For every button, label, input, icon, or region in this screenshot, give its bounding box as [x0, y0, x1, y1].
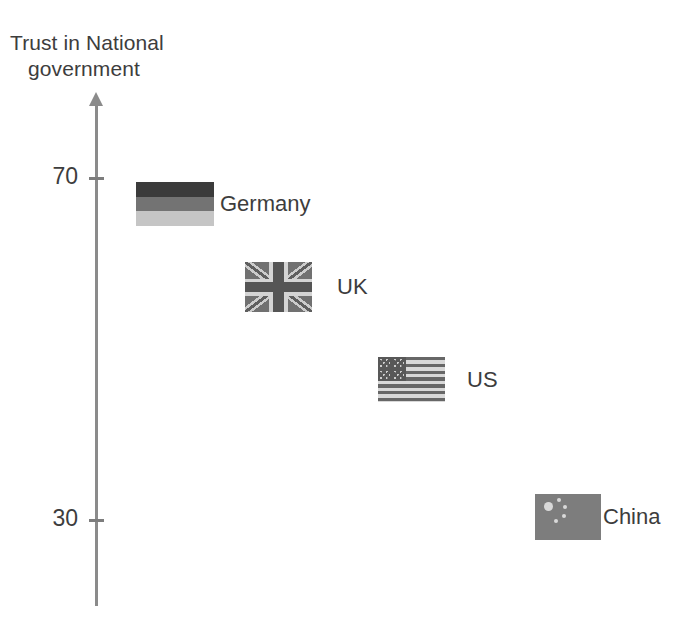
y-axis-title-line1: Trust in National [10, 31, 164, 54]
y-axis-tick-mark-30 [89, 519, 104, 522]
china-star-small-1 [557, 498, 561, 502]
data-point-uk: UK [245, 262, 368, 312]
flag-china-icon [535, 494, 601, 540]
data-point-china: China [535, 494, 660, 540]
y-axis-title: Trust in Nationalgovernment [10, 30, 164, 82]
data-point-label-germany: Germany [220, 193, 310, 215]
flag-germany-icon [136, 182, 214, 226]
y-axis-tick-label-30: 30 [18, 507, 78, 530]
y-axis-tick-label-70: 70 [18, 165, 78, 188]
uk-cross-red-vertical [273, 262, 284, 312]
y-axis-line [95, 98, 98, 606]
data-point-germany: Germany [136, 182, 310, 226]
chart-canvas: Trust in Nationalgovernment 70 30 German… [0, 0, 697, 633]
china-star-small-2 [563, 505, 567, 509]
flag-us-icon [378, 357, 445, 402]
china-star-large [544, 502, 553, 511]
china-star-small-4 [554, 519, 558, 523]
data-point-us: US [378, 357, 498, 402]
data-point-label-china: China [603, 506, 660, 528]
data-point-label-us: US [467, 369, 498, 391]
flag-uk-icon [245, 262, 312, 312]
china-star-small-3 [562, 514, 566, 518]
us-canton [378, 357, 406, 381]
data-point-label-uk: UK [337, 276, 368, 298]
y-axis-title-line2: government [28, 56, 164, 82]
y-axis-tick-mark-70 [89, 177, 104, 180]
